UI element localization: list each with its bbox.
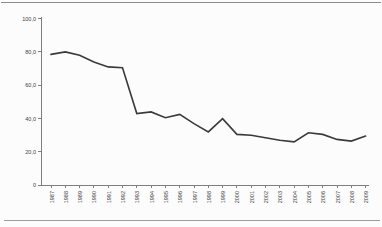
line-chart-svg: 020,040,060,080,0100,0198719881989199019… [0,0,382,227]
x-axis-tick-label: 1999 [220,191,226,203]
x-axis-tick-label: 1994 [149,191,155,203]
x-axis-tick-label: 2004 [292,191,298,203]
x-axis-tick-label: 1996 [177,191,183,203]
x-axis-tick-label: 1987 [49,191,55,203]
x-axis-tick-label: 2003 [277,191,283,203]
x-axis-tick-label: 1989 [77,191,83,203]
y-axis-tick-label: 80,0 [25,49,36,55]
y-axis-tick-label: 0 [33,182,36,188]
y-axis-tick-label: 100,0 [22,16,36,22]
y-axis-tick-label: 60,0 [25,82,36,88]
x-axis-tick-label: 2002 [263,191,269,203]
x-axis-tick-label: 2001 [249,191,255,203]
x-axis-tick-label: 1993 [134,191,140,203]
x-axis-tick-label: 2000 [234,191,240,203]
bottom-divider [4,220,380,221]
x-axis-tick-label: 2008 [349,191,355,203]
x-axis-tick-label: 1995 [163,191,169,203]
x-axis-tick-label: 1991 [106,191,112,203]
x-axis-tick-label: 2009 [363,191,369,203]
x-axis-tick-label: 1990 [91,191,97,203]
line-chart: 020,040,060,080,0100,0198719881989199019… [0,0,382,227]
x-axis-tick-label: 1998 [206,191,212,203]
x-axis-tick-label: 1988 [63,191,69,203]
x-axis-tick-label: 2005 [306,191,312,203]
series-line [51,52,366,142]
x-axis-tick-label: 2006 [320,191,326,203]
x-axis-tick-label: 2007 [335,191,341,203]
y-axis-tick-label: 20,0 [25,149,36,155]
x-axis-tick-label: 1997 [192,191,198,203]
y-axis-tick-label: 40,0 [25,116,36,122]
x-axis-tick-label: 1992 [120,191,126,203]
